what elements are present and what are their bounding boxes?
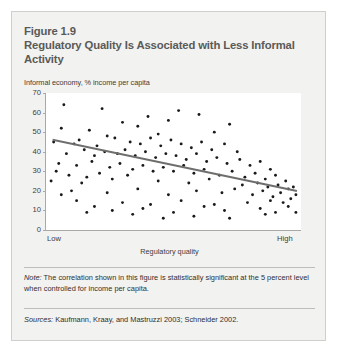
data-point	[175, 154, 178, 157]
data-point	[192, 172, 195, 175]
data-point	[215, 156, 218, 159]
figure-card: Figure 1.9 Regulatory Quality Is Associa…	[11, 11, 326, 341]
data-point	[65, 152, 68, 155]
data-point	[126, 174, 129, 177]
data-point	[261, 189, 264, 192]
note-body: The correlation shown in this figure is …	[24, 273, 309, 293]
data-point	[162, 217, 165, 220]
data-point	[60, 193, 63, 196]
data-point	[269, 199, 272, 202]
y-axis-tick-70: 70	[19, 88, 41, 97]
data-point	[223, 142, 226, 145]
data-point	[249, 164, 252, 167]
data-point	[243, 176, 246, 179]
data-point	[251, 193, 254, 196]
x-axis-label: Regulatory quality	[12, 247, 326, 256]
y-axis-tick-20: 20	[19, 186, 41, 195]
data-points-group	[50, 103, 298, 219]
data-point	[274, 174, 277, 177]
figure-sources: Sources: Kaufmann, Kraay, and Mastruzzi …	[24, 315, 317, 326]
data-point	[90, 160, 93, 163]
data-point	[269, 168, 272, 171]
data-point	[80, 182, 83, 185]
data-point	[236, 150, 239, 153]
data-point	[60, 127, 63, 130]
data-point	[274, 211, 277, 214]
data-point	[213, 203, 216, 206]
data-point	[208, 178, 211, 181]
data-point	[136, 187, 139, 190]
data-point	[264, 178, 267, 181]
data-point	[170, 139, 173, 142]
y-axis-tick-40: 40	[19, 147, 41, 156]
figure-note: Note: The correlation shown in this figu…	[24, 273, 317, 294]
data-point	[195, 152, 198, 155]
data-point	[228, 123, 231, 126]
data-point	[162, 166, 165, 169]
data-point	[292, 185, 295, 188]
scatter-plot-canvas	[46, 93, 301, 230]
data-point	[190, 146, 193, 149]
sources-body: Kaufmann, Kraay, and Mastruzzi 2003; Sch…	[53, 315, 238, 324]
data-point	[55, 170, 58, 173]
data-point	[119, 162, 122, 165]
data-point	[238, 158, 241, 161]
trend-line	[54, 140, 296, 191]
data-point	[210, 148, 213, 151]
data-point	[108, 166, 111, 169]
scatter-plot-area	[45, 93, 301, 231]
data-point	[231, 170, 234, 173]
data-point	[141, 164, 144, 167]
data-point	[294, 193, 297, 196]
data-point	[75, 164, 78, 167]
data-point	[187, 182, 190, 185]
data-point	[172, 211, 175, 214]
data-point	[200, 140, 203, 143]
data-point	[223, 209, 226, 212]
data-point	[144, 150, 147, 153]
data-point	[246, 201, 249, 204]
data-point	[141, 207, 144, 210]
data-point	[106, 191, 109, 194]
data-point	[131, 168, 134, 171]
y-axis-tick-0: 0	[19, 225, 41, 234]
data-point	[294, 211, 297, 214]
data-point	[131, 213, 134, 216]
data-point	[83, 148, 86, 151]
data-point	[228, 217, 231, 220]
data-point	[254, 172, 257, 175]
y-axis-tick-60: 60	[19, 108, 41, 117]
data-point	[85, 176, 88, 179]
data-point	[157, 180, 160, 183]
data-point	[177, 109, 180, 112]
data-point	[124, 148, 127, 151]
data-point	[264, 213, 267, 216]
data-point	[195, 189, 198, 192]
sources-label: Sources:	[24, 315, 53, 324]
data-point	[159, 144, 162, 147]
data-point	[149, 137, 152, 140]
sources-divider	[24, 308, 315, 309]
data-point	[147, 115, 150, 118]
data-point	[139, 142, 142, 145]
y-axis-tick-10: 10	[19, 205, 41, 214]
data-point	[221, 191, 224, 194]
data-point	[101, 107, 104, 110]
data-point	[205, 160, 208, 163]
data-point	[50, 180, 53, 183]
data-point	[282, 201, 285, 204]
data-point	[167, 193, 170, 196]
data-point	[180, 199, 183, 202]
data-point	[88, 129, 91, 132]
x-axis-tick-low: Low	[47, 234, 61, 243]
data-point	[192, 215, 195, 218]
data-point	[70, 189, 73, 192]
data-point	[62, 103, 65, 106]
data-point	[121, 121, 124, 124]
figure-title: Figure 1.9 Regulatory Quality Is Associa…	[24, 24, 314, 67]
data-point	[57, 162, 60, 165]
data-point	[149, 203, 152, 206]
data-point	[136, 125, 139, 128]
data-point	[198, 113, 201, 116]
x-axis-tick-high: High	[277, 234, 293, 243]
